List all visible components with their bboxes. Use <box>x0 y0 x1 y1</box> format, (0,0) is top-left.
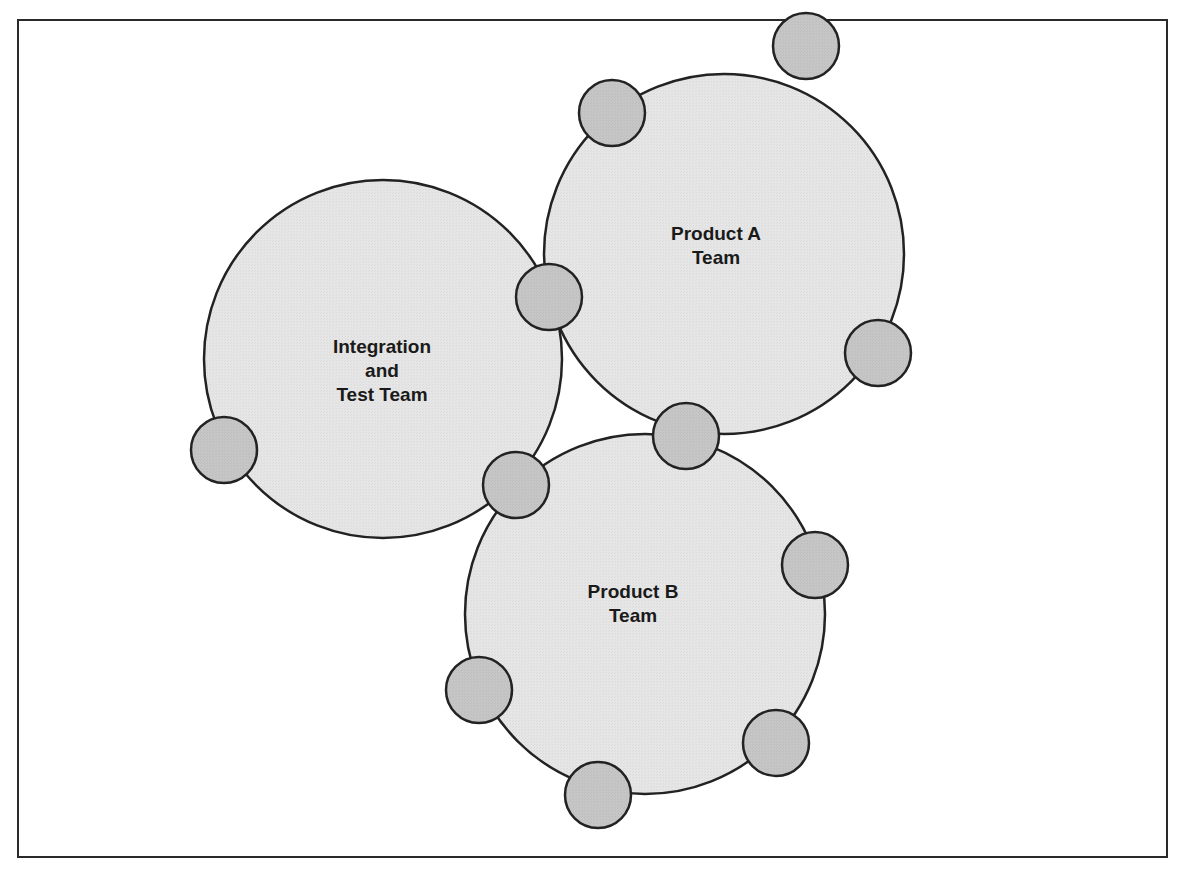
team-label-line: Integration <box>333 335 431 359</box>
team-label-line: and <box>333 359 431 383</box>
team-label-line: Team <box>588 604 679 628</box>
member-node-4-texture <box>518 266 581 329</box>
member-node-5-texture <box>193 419 256 482</box>
team-label-line: Product B <box>588 580 679 604</box>
member-node-11-texture <box>567 764 630 827</box>
team-circles <box>204 74 904 794</box>
member-node-7-texture <box>655 405 718 468</box>
team-label-line: Test Team <box>333 383 431 407</box>
member-node-6-texture <box>485 454 548 517</box>
member-node-10-texture <box>745 712 808 775</box>
product-a-team-label: Product ATeam <box>671 222 761 270</box>
member-node-3-texture <box>847 322 910 385</box>
member-node-9-texture <box>448 659 511 722</box>
integration-test-team-label: IntegrationandTest Team <box>333 335 431 407</box>
team-label-line: Product A <box>671 222 761 246</box>
product-b-team-label: Product BTeam <box>588 580 679 628</box>
member-node-8-texture <box>784 534 847 597</box>
member-node-1-texture <box>581 82 644 145</box>
team-circles-diagram <box>0 0 1182 869</box>
member-node-2-texture <box>775 15 838 78</box>
team-label-line: Team <box>671 246 761 270</box>
